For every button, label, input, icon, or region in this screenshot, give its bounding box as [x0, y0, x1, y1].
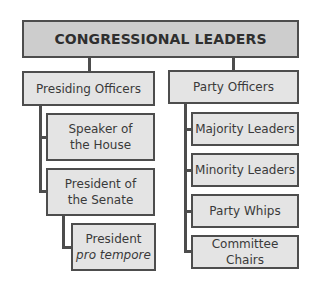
node-president-of-the-senate: President of the Senate — [46, 168, 155, 216]
node-minority-leaders: Minority Leaders — [191, 153, 299, 187]
node-label: CONGRESSIONAL LEADERS — [54, 31, 266, 47]
connector-party-trunk — [184, 102, 187, 252]
node-majority-leaders: Majority Leaders — [191, 112, 299, 146]
connector-root-to-presiding — [88, 56, 91, 72]
node-label-line1: Speaker of — [68, 121, 132, 137]
node-presiding-officers: Presiding Officers — [22, 71, 155, 106]
node-label: Presiding Officers — [36, 81, 141, 97]
node-label-line1: President — [76, 231, 151, 247]
node-label-line2: pro tempore — [76, 247, 151, 263]
connector-presiding-trunk — [39, 104, 42, 192]
node-label-line2: the Senate — [65, 192, 136, 208]
node-label-line2: the House — [68, 137, 132, 153]
node-party-whips: Party Whips — [191, 194, 299, 228]
node-committee-chairs: Committee Chairs — [191, 235, 299, 269]
node-president-pro-tempore: President pro tempore — [71, 223, 156, 271]
connector-root-to-party — [232, 56, 235, 71]
node-congressional-leaders: CONGRESSIONAL LEADERS — [22, 20, 299, 58]
node-label: Minority Leaders — [195, 162, 295, 178]
connector-senate-trunk — [62, 214, 65, 248]
node-party-officers: Party Officers — [168, 70, 299, 104]
node-label: Committee Chairs — [193, 236, 297, 268]
node-label-line1: President of — [65, 176, 136, 192]
node-label: Party Officers — [193, 79, 274, 95]
node-speaker-of-the-house: Speaker of the House — [46, 113, 155, 161]
node-label: Majority Leaders — [195, 121, 295, 137]
node-label: Party Whips — [209, 203, 280, 219]
